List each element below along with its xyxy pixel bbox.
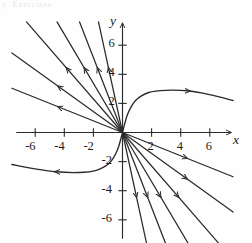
trajectory-ray	[123, 133, 219, 243]
y-tick-label: 6	[109, 36, 115, 51]
trajectory-ray	[123, 133, 147, 243]
x-axis-label: x	[233, 132, 239, 148]
y-axis-label: y	[110, 13, 116, 29]
x-tick-label: 2	[148, 139, 154, 154]
phase-portrait-plot	[0, 0, 252, 243]
figure-panel: y. Exercises -6-4-2246-6-4-2246 x y	[0, 0, 252, 243]
y-tick-label: -6	[102, 211, 112, 226]
x-tick-label: -6	[25, 139, 35, 154]
axes-group	[16, 23, 231, 238]
x-tick-label: 4	[177, 139, 183, 154]
y-tick-label: -4	[102, 182, 112, 197]
trajectory-ray	[12, 53, 123, 133]
trajectory-ray	[80, 22, 123, 133]
trajectory-ray	[123, 133, 166, 243]
separatrix-curve	[123, 90, 234, 132]
x-tick-label: 6	[206, 139, 212, 154]
y-tick-label: 4	[109, 65, 115, 80]
x-tick-label: -2	[83, 139, 93, 154]
x-tick-label: -4	[54, 139, 64, 154]
trajectory-ray	[12, 88, 123, 132]
y-tick-label: -2	[102, 153, 112, 168]
y-tick-label: 2	[109, 94, 115, 109]
